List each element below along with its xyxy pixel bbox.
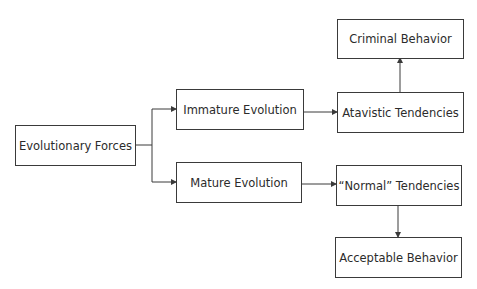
node-acceptable-behavior: Acceptable Behavior bbox=[335, 237, 462, 278]
node-atavistic-tendencies: Atavistic Tendencies bbox=[337, 92, 464, 133]
node-immature-evolution: Immature Evolution bbox=[176, 89, 304, 130]
node-evolutionary-forces: Evolutionary Forces bbox=[15, 125, 136, 166]
node-criminal-behavior: Criminal Behavior bbox=[337, 19, 464, 59]
node-normal-tendencies: “Normal” Tendencies bbox=[336, 165, 462, 206]
node-mature-evolution: Mature Evolution bbox=[176, 162, 302, 203]
